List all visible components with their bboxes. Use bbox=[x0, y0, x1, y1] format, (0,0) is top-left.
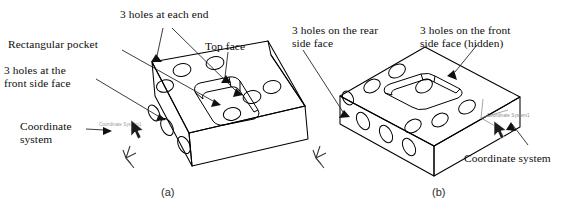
panel-caption-b: (b) bbox=[432, 186, 445, 198]
engineering-figure: 3 holes at each end Rectangular pocket T… bbox=[0, 0, 576, 208]
cursor-b bbox=[0, 0, 576, 208]
